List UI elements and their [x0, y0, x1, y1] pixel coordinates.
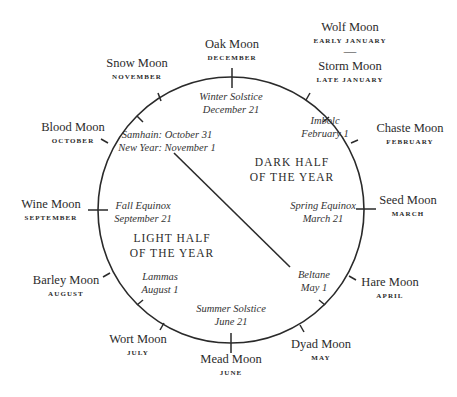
- festival-label: Fall EquinoxSeptember 21: [114, 200, 171, 224]
- moon-name: Wort Moon: [109, 332, 167, 346]
- moon-name: Barley Moon: [33, 273, 100, 287]
- festival-label: LammasAugust 1: [140, 271, 178, 295]
- festival-label: Spring EquinoxMarch 21: [290, 200, 356, 224]
- festival-label: Winter SolsticeDecember 21: [199, 91, 263, 115]
- outer-tick-mark: [351, 140, 358, 143]
- moon-name: Storm Moon: [318, 59, 382, 73]
- outer-tick-mark: [306, 93, 310, 100]
- festival-name: Samhain: October 31: [122, 129, 212, 140]
- moon-label: Mead MoonJUNE: [200, 352, 262, 377]
- moon-name: Dyad Moon: [291, 337, 352, 351]
- outer-tick-mark: [349, 276, 356, 280]
- moon-separator: —: [343, 44, 357, 58]
- outer-tick-mark: [101, 139, 108, 143]
- moon-month: OCTOBER: [52, 137, 95, 145]
- outer-tick-mark: [103, 273, 110, 277]
- festival-date: February 1: [300, 128, 349, 139]
- outer-tick-mark: [300, 325, 304, 332]
- moon-month: SEPTEMBER: [24, 214, 77, 222]
- festival-labels: Winter SolsticeDecember 21ImbolcFebruary…: [114, 91, 356, 327]
- dark-half-label: DARK HALF OF THE YEAR: [250, 156, 334, 183]
- moon-month: DECEMBER: [207, 54, 256, 62]
- inner-tick-mark: [137, 116, 143, 122]
- festival-date: May 1: [300, 282, 328, 293]
- wheel-of-the-year-diagram: DARK HALF OF THE YEAR LIGHT HALF OF THE …: [0, 0, 457, 397]
- festival-label: Samhain: October 31New Year: November 1: [117, 129, 215, 153]
- festival-date: June 21: [215, 316, 248, 327]
- dark-half-line2: OF THE YEAR: [250, 171, 334, 183]
- festival-name: Spring Equinox: [290, 200, 356, 211]
- light-half-label: LIGHT HALF OF THE YEAR: [130, 232, 214, 259]
- moon-month: MARCH: [392, 210, 425, 218]
- moon-label: Seed MoonMARCH: [379, 193, 437, 218]
- moon-name: Mead Moon: [200, 352, 262, 366]
- moon-month: LATE JANUARY: [316, 76, 383, 84]
- moon-label: Chaste MoonFEBRUARY: [376, 121, 444, 146]
- moon-month: APRIL: [376, 292, 403, 300]
- moon-label: Dyad MoonMAY: [291, 337, 352, 362]
- moon-month: MAY: [311, 354, 330, 362]
- moon-label: Oak MoonDECEMBER: [205, 37, 260, 62]
- festival-name: Summer Solstice: [196, 303, 266, 314]
- festival-date: September 21: [114, 213, 171, 224]
- moon-label: Hare MoonAPRIL: [361, 275, 419, 300]
- moon-label: Blood MoonOCTOBER: [41, 120, 105, 145]
- moon-name: Wine Moon: [21, 197, 81, 211]
- moon-label: Wine MoonSEPTEMBER: [21, 197, 81, 222]
- dark-half-line1: DARK HALF: [255, 156, 330, 168]
- festival-label: Summer SolsticeJune 21: [196, 303, 266, 327]
- moon-label: Wort MoonJULY: [109, 332, 167, 357]
- moon-month: NOVEMBER: [112, 73, 162, 81]
- moon-name: Wolf Moon: [321, 20, 379, 34]
- moon-label: Storm MoonLATE JANUARY: [316, 59, 383, 84]
- inner-tick-mark: [137, 300, 143, 305]
- festival-date: March 21: [302, 213, 344, 224]
- moon-name: Blood Moon: [41, 120, 105, 134]
- inner-tick-mark: [319, 300, 325, 305]
- moon-label: Wolf MoonEARLY JANUARY—: [313, 20, 386, 58]
- moon-month: JULY: [127, 349, 149, 357]
- festival-label: ImbolcFebruary 1: [300, 115, 349, 139]
- festival-name: Lammas: [141, 271, 178, 282]
- moon-name: Oak Moon: [205, 37, 260, 51]
- festival-date: December 21: [202, 104, 259, 115]
- moon-name: Hare Moon: [361, 275, 419, 289]
- festival-name: Beltane: [298, 269, 330, 280]
- festival-label: BeltaneMay 1: [298, 269, 330, 293]
- festival-date: August 1: [140, 284, 178, 295]
- festival-name: Imbolc: [309, 115, 339, 126]
- festival-name: Winter Solstice: [199, 91, 263, 102]
- festival-name: Fall Equinox: [114, 200, 170, 211]
- moon-name: Chaste Moon: [376, 121, 444, 135]
- light-half-line1: LIGHT HALF: [133, 232, 210, 244]
- moon-label: Snow MoonNOVEMBER: [106, 56, 168, 81]
- moon-name: Snow Moon: [106, 56, 168, 70]
- moon-month: JUNE: [220, 369, 243, 377]
- moon-label: Barley MoonAUGUST: [33, 273, 100, 298]
- light-half-line2: OF THE YEAR: [130, 247, 214, 259]
- moon-month: FEBRUARY: [386, 138, 433, 146]
- moon-name: Seed Moon: [379, 193, 437, 207]
- moon-month: AUGUST: [48, 290, 84, 298]
- festival-date: New Year: November 1: [117, 142, 215, 153]
